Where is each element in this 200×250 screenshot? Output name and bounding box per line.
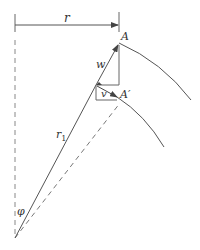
blade-curve-a-prime	[117, 97, 164, 147]
radius-r1	[15, 85, 96, 238]
velocity-diagram: r A A′ w v r1 φ	[0, 0, 200, 250]
vector-v	[97, 86, 117, 97]
label-a-prime: A′	[119, 88, 131, 101]
label-a: A	[120, 30, 129, 43]
label-r: r	[64, 11, 71, 25]
label-v: v	[101, 88, 107, 99]
radius-a-prime	[15, 103, 120, 238]
label-w: w	[96, 58, 106, 71]
label-r1: r1	[56, 128, 66, 143]
label-phi: φ	[17, 205, 25, 218]
